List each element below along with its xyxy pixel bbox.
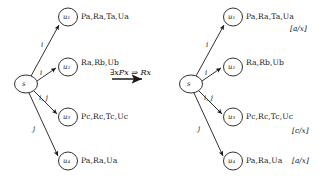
- right-node-u4-atoms: Pa,Ra,Ua: [246, 156, 282, 165]
- right-node-u4-label: u₄: [228, 157, 235, 165]
- right-edge-label-i-1: i: [206, 41, 208, 49]
- graph-vector-layer: [0, 0, 330, 179]
- right-node-u4-substitution: [a/x]: [292, 156, 309, 165]
- right-node-u3-label: u₃: [228, 113, 235, 121]
- right-edge-label-i-2: i: [205, 69, 207, 77]
- left-root-node[interactable]: [15, 75, 38, 93]
- right-node-u3-atoms: Pc,Rc,Tc,Uc: [246, 112, 293, 121]
- transformation-formula: ∃xPx ⇒ Rx: [110, 68, 151, 77]
- right-node-u2-atoms: Ra,Rb,Ub: [246, 58, 284, 67]
- left-edge-label-ij: i, j: [39, 94, 48, 102]
- left-node-u1-atoms: Pa,Ra,Ta,Ua: [81, 12, 129, 21]
- left-node-u4-label: u₄: [63, 157, 70, 165]
- left-node-u4-atoms: Pa,Ra,Ua: [81, 156, 117, 165]
- right-edge-label-ij: i, j: [204, 94, 213, 102]
- right-node-u1-substitution: [a/x]: [290, 24, 307, 33]
- right-edge-label-j: j: [198, 125, 200, 133]
- right-root-node[interactable]: [180, 75, 203, 93]
- left-edge-label-j: j: [33, 125, 35, 133]
- right-node-u1-atoms: Pa,Ra,Ta,Ua: [246, 12, 294, 21]
- left-root-label: s: [22, 80, 26, 88]
- left-node-u3-atoms: Pc,Rc,Tc,Uc: [81, 112, 128, 121]
- left-node-u2-label: u₂: [63, 63, 70, 71]
- right-node-u1-label: u₁: [228, 13, 235, 21]
- right-node-u2-label: u₂: [228, 63, 235, 71]
- left-edge-label-i-1: i: [41, 41, 43, 49]
- left-node-u2-atoms: Ra,Rb,Ub: [81, 58, 119, 67]
- left-node-u1-label: u₁: [63, 13, 70, 21]
- figure-canvas: s u₁ u₂ u₃ u₄ Pa,Ra,Ta,Ua Ra,Rb,Ub Pc,Rc…: [0, 0, 330, 179]
- right-root-label: s: [187, 80, 191, 88]
- left-node-u3-label: u₃: [63, 113, 70, 121]
- right-node-u3-substitution: [c/x]: [292, 126, 309, 135]
- left-edge-label-i-2: i: [40, 69, 42, 77]
